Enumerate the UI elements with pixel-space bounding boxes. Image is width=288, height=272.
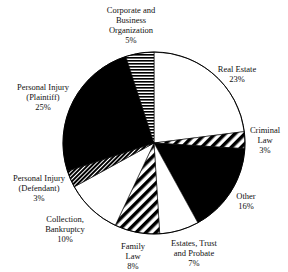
slice-label-line: 16% xyxy=(236,201,255,211)
slice-label: Personal Injury(Defendant)3% xyxy=(13,173,65,203)
slice-label-line: 25% xyxy=(17,102,69,112)
slice-label: FamilyLaw8% xyxy=(121,241,145,271)
slice-label: Estates, Trustand Probate7% xyxy=(171,238,217,268)
slice-label-line: 10% xyxy=(45,234,85,244)
slice-label-line: 8% xyxy=(121,261,145,271)
slice-label-line: Business xyxy=(107,15,155,25)
slice-label-line: Law xyxy=(250,135,280,145)
slice-label-line: Collection, xyxy=(45,214,85,224)
slice-label-line: 5% xyxy=(107,35,155,45)
slice-label-line: Personal Injury xyxy=(13,173,65,183)
slice-label-line: 23% xyxy=(218,74,256,84)
slice-label-line: Organization xyxy=(107,25,155,35)
slice-label-line: Real Estate xyxy=(218,64,256,74)
slice-label-line: Law xyxy=(121,251,145,261)
slice-label: Personal Injury(Plaintiff)25% xyxy=(17,82,69,112)
slice-label-line: Other xyxy=(236,191,255,201)
slice-label-line: 3% xyxy=(13,193,65,203)
slice-label-line: (Defendant) xyxy=(13,183,65,193)
slice-label-line: Personal Injury xyxy=(17,82,69,92)
slice-label-line: Corporate and xyxy=(107,5,155,15)
slice-label: Corporate andBusinessOrganization5% xyxy=(107,5,155,45)
slice-label-line: Family xyxy=(121,241,145,251)
slice-label-line: Criminal xyxy=(250,125,280,135)
slice-label: Other16% xyxy=(236,191,255,211)
slice-label-line: 7% xyxy=(171,258,217,268)
slice-label-line: 3% xyxy=(250,145,280,155)
slice-label-line: Bankruptcy xyxy=(45,224,85,234)
slice-label: CriminalLaw3% xyxy=(250,125,280,155)
slice-label: Collection,Bankruptcy10% xyxy=(45,214,85,244)
slice-label-line: Estates, Trust xyxy=(171,238,217,248)
slice-label-line: and Probate xyxy=(171,248,217,258)
slice-label: Real Estate23% xyxy=(218,64,256,84)
slice-label-line: (Plaintiff) xyxy=(17,92,69,102)
